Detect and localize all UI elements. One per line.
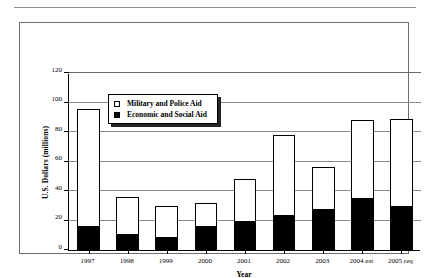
x-tick [284, 250, 285, 254]
bar-slot-1997 [69, 73, 108, 250]
legend-item-military: Military and Police Aid [114, 98, 207, 109]
y-axis-title: U.S. Dollars (millions) [40, 74, 52, 251]
x-tick-label-2002: 2002 [264, 257, 303, 265]
x-tick [401, 250, 402, 254]
y-tick-label-20: 20 [55, 214, 62, 221]
x-tick [323, 250, 324, 254]
stacked-bar[interactable] [273, 135, 296, 250]
x-tick [167, 250, 168, 254]
stacked-bar[interactable] [116, 197, 139, 250]
x-tick-label-2004-est: 2004 est [342, 257, 381, 265]
bar-segment-economic[interactable] [313, 209, 334, 250]
figure-page: U.S. Dollars (millions) 020406080100120 … [0, 0, 430, 278]
legend-item-economic: Economic and Social Aid [114, 109, 207, 120]
x-tick-label-2005-req: 2005 req [381, 257, 420, 265]
stacked-bar[interactable] [312, 167, 335, 250]
stacked-bar[interactable] [390, 119, 413, 250]
x-tick [206, 250, 207, 254]
x-tick-label-2001: 2001 [224, 257, 263, 265]
y-tick-label-120: 120 [52, 66, 63, 73]
bar-segment-economic[interactable] [78, 226, 99, 250]
bar-segment-economic[interactable] [274, 215, 295, 250]
bar-segment-economic[interactable] [352, 198, 373, 250]
filled-square-icon [114, 112, 120, 118]
stacked-bar[interactable] [195, 203, 218, 250]
x-tick [128, 250, 129, 254]
y-tick-label-100: 100 [52, 96, 63, 103]
bar-segment-economic[interactable] [117, 234, 138, 250]
y-tick-label-0: 0 [59, 243, 63, 250]
legend-label-military: Military and Police Aid [127, 99, 202, 108]
x-tick-label-2000: 2000 [185, 257, 224, 265]
bar-slot-2005-req [382, 73, 421, 250]
y-tick-label-60: 60 [55, 155, 62, 162]
legend-label-economic: Economic and Social Aid [127, 110, 207, 119]
bar-slot-2003 [304, 73, 343, 250]
x-axis-title: Year [68, 270, 420, 278]
figure-border-box: U.S. Dollars (millions) 020406080100120 … [19, 22, 409, 254]
stacked-bar[interactable] [351, 120, 374, 250]
bar-segment-economic[interactable] [196, 226, 217, 250]
x-tick-label-1998: 1998 [107, 257, 146, 265]
x-tick [89, 250, 90, 254]
top-horizontal-rule [14, 7, 416, 8]
bar-slot-2002 [265, 73, 304, 250]
x-tick-label-1999: 1999 [146, 257, 185, 265]
stacked-bar[interactable] [77, 109, 100, 250]
bar-slot-2001 [225, 73, 264, 250]
chart-legend: Military and Police Aid Economic and Soc… [108, 94, 218, 124]
hollow-square-icon [114, 101, 120, 107]
bar-segment-economic[interactable] [235, 221, 256, 251]
x-tick [362, 250, 363, 254]
x-tick [245, 250, 246, 254]
bar-segment-economic[interactable] [391, 206, 412, 250]
x-tick-label-2003: 2003 [303, 257, 342, 265]
y-tick-label-40: 40 [55, 184, 62, 191]
x-tick-label-1997: 1997 [68, 257, 107, 265]
bar-slot-2004-est [343, 73, 382, 250]
bar-segment-economic[interactable] [156, 237, 177, 250]
stacked-bar[interactable] [155, 206, 178, 250]
stacked-bar[interactable] [234, 179, 257, 250]
y-tick-label-80: 80 [55, 125, 62, 132]
x-axis-tick-labels: 19971998199920002001200220032004 est2005… [68, 257, 420, 265]
